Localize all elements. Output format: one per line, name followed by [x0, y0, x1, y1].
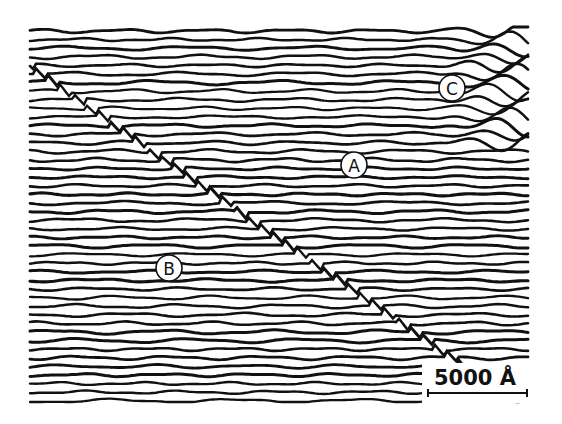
- step-line: [30, 268, 528, 278]
- step-line: [30, 232, 528, 242]
- step-line: [30, 274, 528, 284]
- step-line: [30, 208, 528, 219]
- step-line: [30, 54, 528, 64]
- step-line: [30, 197, 528, 206]
- step-line: [30, 127, 528, 140]
- step-line: [30, 284, 528, 293]
- step-line: [30, 173, 528, 183]
- step-line: [30, 27, 528, 37]
- scale-bar: 5000 Å: [422, 363, 531, 403]
- step-line: [30, 31, 528, 44]
- step-line: [30, 225, 528, 235]
- label-b: B: [156, 255, 182, 281]
- step-line: [30, 240, 528, 251]
- micrograph-figure: ABC 5000 Å: [0, 0, 562, 424]
- label-a: A: [341, 152, 367, 178]
- step-line: [30, 300, 528, 310]
- step-line: [30, 108, 528, 122]
- step-line: [30, 187, 528, 197]
- step-line: [30, 260, 528, 270]
- step-line: [30, 293, 528, 303]
- step-line: [30, 218, 528, 228]
- step-line: [30, 308, 528, 319]
- step-line: [30, 351, 528, 361]
- label-text: A: [348, 156, 360, 176]
- label-c: C: [439, 75, 465, 101]
- label-text: C: [446, 79, 458, 99]
- label-text: B: [163, 259, 175, 279]
- step-line: [30, 164, 528, 173]
- step-line: [30, 157, 528, 165]
- step-line: [30, 335, 528, 345]
- scale-bar-label: 5000 Å: [434, 365, 517, 390]
- step-line: [30, 328, 528, 338]
- step-line: [30, 345, 528, 356]
- step-line: [30, 181, 528, 191]
